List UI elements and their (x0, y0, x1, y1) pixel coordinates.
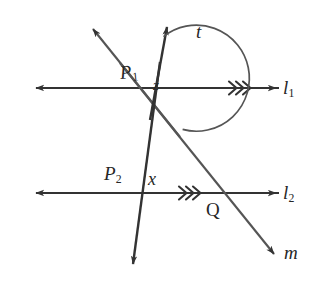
label-line-m: m (284, 243, 298, 262)
label-point-p2-subscript: 2 (116, 173, 122, 186)
label-point-q: Q (206, 200, 220, 219)
label-point-p1-letter: P (119, 61, 133, 83)
geometry-figure: t P1 z l1 P2 x l2 Q m (0, 0, 313, 290)
geometry-canvas (0, 0, 313, 290)
label-line-l2-subscript: 2 (288, 192, 294, 205)
label-angle-z: z (153, 78, 159, 93)
label-transversal-t: t (196, 22, 201, 41)
label-line-l1-subscript: 1 (288, 87, 294, 100)
angle-arc-z (164, 25, 250, 131)
transversal-line-t (133, 27, 167, 264)
label-point-p1-subscript: 1 (131, 70, 138, 84)
label-line-l2: l2 (283, 183, 294, 205)
label-point-p2-letter: P (104, 163, 116, 184)
line-m-lower-arrow (120, 63, 274, 254)
label-line-l1: l1 (283, 78, 294, 100)
label-point-p1: P1 (119, 61, 139, 85)
label-point-p2: P2 (104, 164, 122, 186)
label-angle-x: x (148, 170, 156, 188)
line-l2 (36, 187, 279, 200)
